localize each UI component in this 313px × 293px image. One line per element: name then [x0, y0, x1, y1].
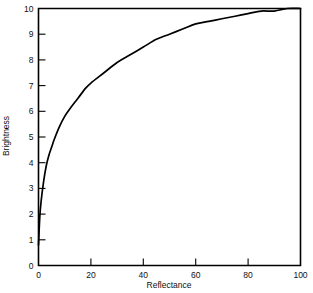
y-tick-label: 6 — [29, 106, 34, 116]
y-tick-label: 5 — [29, 132, 34, 142]
data-series-group — [39, 8, 301, 245]
y-tick-label: 7 — [29, 81, 34, 91]
brightness-reflectance-curve — [39, 8, 301, 245]
y-tick-label: 0 — [29, 261, 34, 271]
x-tick-label: 40 — [139, 270, 149, 280]
chart-plot: 012345678910 020406080100 Reflectance Br… — [0, 0, 313, 293]
x-axis-title: Reflectance — [147, 280, 192, 290]
y-tick-label: 9 — [29, 29, 34, 39]
plot-frame — [39, 9, 301, 266]
y-axis-title: Brightness — [1, 116, 11, 156]
y-tick-label: 4 — [29, 158, 34, 168]
figure-container: 012345678910 020406080100 Reflectance Br… — [0, 0, 313, 293]
x-axis-ticks — [91, 259, 248, 266]
x-tick-label: 0 — [36, 270, 41, 280]
y-tick-label: 2 — [29, 209, 34, 219]
x-tick-label: 60 — [191, 270, 201, 280]
y-tick-label: 8 — [29, 55, 34, 65]
y-tick-label: 3 — [29, 183, 34, 193]
y-tick-label: 1 — [29, 235, 34, 245]
y-axis-tick-labels: 012345678910 — [24, 4, 34, 271]
x-tick-label: 100 — [293, 270, 307, 280]
x-tick-label: 80 — [243, 270, 253, 280]
x-tick-label: 20 — [86, 270, 96, 280]
x-axis-tick-labels: 020406080100 — [36, 270, 308, 280]
y-tick-label: 10 — [24, 4, 34, 14]
